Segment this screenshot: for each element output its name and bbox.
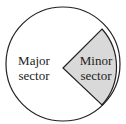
major-label-line1: Major bbox=[14, 53, 54, 68]
minor-sector-label: Minor sector bbox=[76, 53, 116, 83]
minor-label-line1: Minor bbox=[76, 53, 116, 68]
major-sector-label: Major sector bbox=[14, 53, 54, 83]
major-label-line2: sector bbox=[14, 68, 54, 83]
minor-label-line2: sector bbox=[76, 68, 116, 83]
